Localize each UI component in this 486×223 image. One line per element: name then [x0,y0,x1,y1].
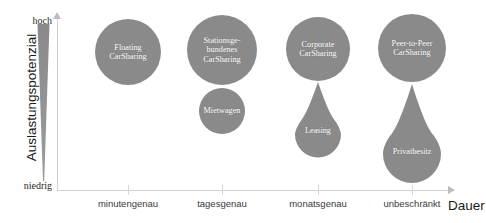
x-axis-tick-mark-4 [412,185,413,195]
bubble-label-line-1: Corporate [297,40,338,49]
bubble-label-line-3: CarSharing [201,55,242,64]
x-axis-tick-mark-2 [222,185,223,195]
x-axis-tick-mark-1 [128,185,129,195]
potential-wedge-icon [37,24,50,181]
bubble-corporate-carsharing[interactable]: Corporate CarSharing [286,17,350,81]
bubble-label-line-2: bundenes [201,45,242,54]
x-axis-tick-mark-3 [318,185,319,195]
bubble-label-line-2: CarSharing [390,48,435,57]
y-axis-tick-low: niedrig [0,180,52,191]
teardrop-leasing[interactable]: Leasing [295,82,341,156]
bubble-label-line-1: Mietwagen [202,106,243,115]
bubble-stationsgebundenes-carsharing[interactable]: Stationsge- bundenes CarSharing [187,15,257,85]
x-axis-title: Dauer [448,198,485,213]
chart-canvas: Auslastungspotenzial hoch niedrig minute… [0,0,486,223]
bubble-label-line-1: Peer-to-Peer [390,39,435,48]
x-axis-arrow-icon [448,186,455,194]
bubble-mietwagen[interactable]: Mietwagen [199,88,245,134]
y-axis-arrow-icon [53,12,61,19]
bubble-peer-to-peer-carsharing[interactable]: Peer-to-Peer CarSharing [378,14,446,82]
bubble-label-line-2: CarSharing [107,52,148,61]
teardrop-privatbesitz[interactable]: Privatbesitz [383,84,441,183]
y-axis-line [57,18,58,191]
x-axis-line [57,190,449,191]
bubble-floating-carsharing[interactable]: Floating CarSharing [95,19,161,85]
bubble-label-line-1: Floating [107,43,148,52]
bubble-label-line-2: CarSharing [297,49,338,58]
